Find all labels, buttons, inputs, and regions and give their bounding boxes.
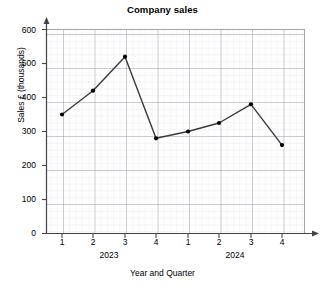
x-axis-arrow-icon xyxy=(312,231,319,237)
data-point-2024-q1 xyxy=(186,129,190,133)
data-point-2023-q3 xyxy=(123,55,127,59)
data-point-2023-q4 xyxy=(154,136,158,140)
data-point-2024-q4 xyxy=(280,143,284,147)
x-axis-title: Year and Quarter xyxy=(0,268,325,278)
data-point-2024-q2 xyxy=(217,121,221,125)
chart-container: Company sales Sales £ (thousands) 0 100 … xyxy=(0,0,325,289)
y-axis-ticks xyxy=(42,30,47,234)
data-point-2023-q1 xyxy=(60,112,64,116)
data-point-2023-q2 xyxy=(91,89,95,93)
plot-area xyxy=(0,0,325,289)
y-axis-arrow-icon xyxy=(44,17,50,24)
data-point-2024-q3 xyxy=(249,102,253,106)
grid-background xyxy=(47,30,305,234)
x-axis-ticks xyxy=(62,234,282,239)
